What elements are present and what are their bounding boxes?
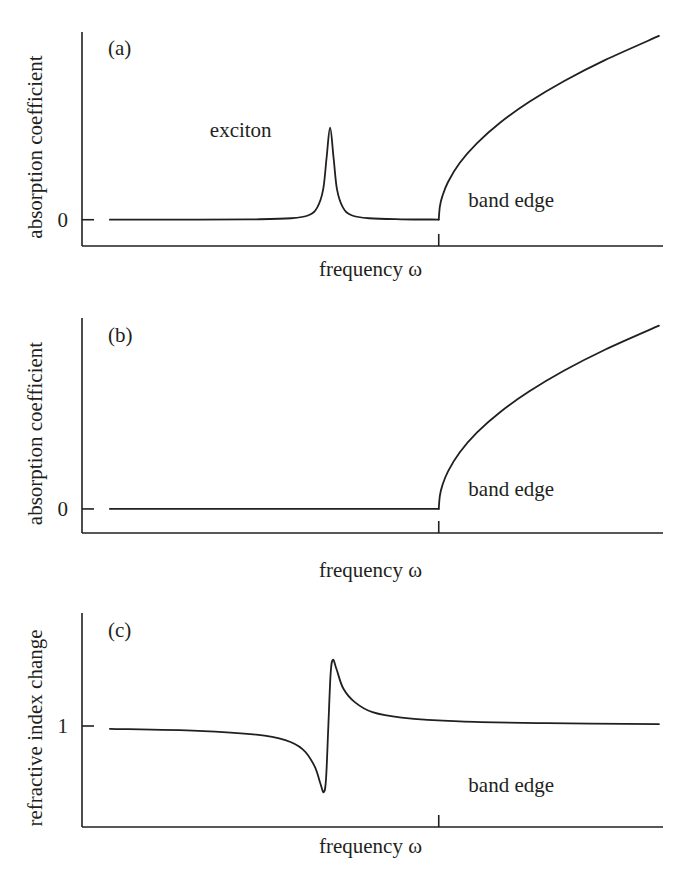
y-axis-label: absorption coefficient	[23, 342, 47, 525]
panel-label: (b)	[108, 323, 133, 347]
x-axis-label: frequency ω	[319, 257, 422, 281]
panel-c: 1(c)frequency ωrefractive index changeba…	[23, 613, 663, 858]
y-tick-label: 0	[58, 208, 69, 232]
panel-a: 0(a)frequency ωabsorption coefficientexc…	[23, 32, 663, 281]
annotation-exciton: exciton	[210, 118, 272, 142]
y-axis-label: refractive index change	[23, 629, 47, 826]
panel-label: (c)	[108, 618, 131, 642]
series-line-exciton-absorption	[110, 128, 439, 220]
panel-label: (a)	[108, 36, 131, 60]
annotation-band-edge: band edge	[468, 477, 554, 501]
x-axis-label: frequency ω	[319, 558, 422, 582]
y-tick-label: 0	[58, 497, 69, 521]
annotation-band-edge: band edge	[468, 773, 554, 797]
y-tick-label: 1	[58, 714, 69, 738]
panel-b: 0(b)frequency ωabsorption coefficientban…	[23, 318, 663, 582]
figure: 0(a)frequency ωabsorption coefficientexc…	[0, 0, 687, 873]
series-line-refractive-index	[110, 660, 659, 793]
y-axis-label: absorption coefficient	[23, 55, 47, 238]
x-axis-label: frequency ω	[319, 834, 422, 858]
annotation-band-edge: band edge	[468, 188, 554, 212]
